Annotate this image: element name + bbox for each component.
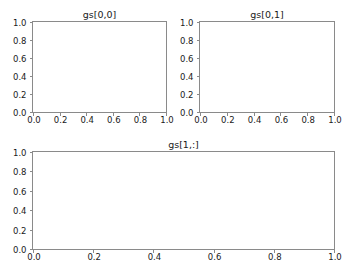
x-axis-tick-label: 0.6	[275, 116, 289, 125]
axes-gs-0-1: gs[0,1] 0.00.20.40.60.81.00.00.20.40.60.…	[199, 21, 335, 113]
x-axis-tick: 0.0	[33, 112, 34, 116]
y-axis-tick-label: 0.8	[13, 168, 27, 177]
y-axis-tick-label: 0.4	[180, 73, 194, 82]
x-axis-tick-label: 0.2	[221, 116, 235, 125]
y-axis-tick: 0.6	[197, 58, 201, 59]
y-axis-tick-label: 0.6	[13, 55, 27, 64]
y-axis-tick: 0.8	[30, 40, 34, 41]
y-axis-tick-label: 1.0	[13, 149, 27, 158]
x-axis-tick-label: 0.8	[301, 116, 315, 125]
y-axis-tick-label: 0.8	[180, 37, 194, 46]
x-axis-tick: 0.4	[86, 112, 87, 116]
x-axis-tick: 0.6	[214, 249, 215, 253]
x-axis-tick-label: 0.4	[80, 116, 94, 125]
y-axis-tick-label: 0.0	[13, 246, 27, 255]
y-axis-tick: 0.4	[30, 76, 34, 77]
y-axis-tick-label: 0.8	[13, 37, 27, 46]
y-axis-tick-label: 0.6	[13, 188, 27, 197]
axes-gs-0-0: gs[0,0] 0.00.20.40.60.81.00.00.20.40.60.…	[32, 21, 167, 113]
x-axis-tick-label: 0.4	[248, 116, 262, 125]
y-axis-tick-label: 1.0	[180, 19, 194, 28]
y-axis-tick: 0.2	[197, 94, 201, 95]
x-axis-tick-label: 0.6	[208, 253, 222, 262]
x-axis-tick: 1.0	[334, 112, 335, 116]
y-axis-tick: 0.8	[197, 40, 201, 41]
axes-title: gs[0,1]	[200, 10, 334, 20]
y-axis-tick: 0.2	[30, 94, 34, 95]
x-axis-tick: 0.8	[274, 249, 275, 253]
y-axis-tick-label: 0.0	[180, 109, 194, 118]
x-axis-tick: 0.2	[60, 112, 61, 116]
x-axis-tick-label: 0.2	[87, 253, 101, 262]
x-axis-tick: 0.6	[113, 112, 114, 116]
x-axis-tick: 0.2	[93, 249, 94, 253]
y-axis-tick-label: 0.4	[13, 207, 27, 216]
x-axis-tick-label: 0.8	[134, 116, 148, 125]
x-axis-tick: 0.8	[307, 112, 308, 116]
x-axis-tick-label: 0.8	[268, 253, 282, 262]
y-axis-tick-label: 1.0	[13, 19, 27, 28]
axes-title: gs[0,0]	[33, 10, 166, 20]
y-axis-tick-label: 0.0	[13, 109, 27, 118]
x-axis-tick: 0.8	[139, 112, 140, 116]
x-axis-tick-label: 1.0	[328, 253, 342, 262]
y-axis-tick: 1.0	[30, 152, 34, 153]
y-axis-tick: 1.0	[30, 22, 34, 23]
x-axis-tick-label: 0.0	[194, 116, 208, 125]
y-axis-tick-label: 0.6	[180, 55, 194, 64]
x-axis-tick: 1.0	[334, 249, 335, 253]
x-axis-tick: 0.6	[280, 112, 281, 116]
x-axis-tick: 0.4	[153, 249, 154, 253]
y-axis-tick: 0.4	[197, 76, 201, 77]
y-axis-tick-label: 0.2	[13, 226, 27, 235]
x-axis-tick: 0.2	[227, 112, 228, 116]
y-axis-tick: 0.4	[30, 210, 34, 211]
y-axis-tick: 0.6	[30, 191, 34, 192]
x-axis-tick-label: 1.0	[160, 116, 174, 125]
x-axis-tick-label: 0.4	[148, 253, 162, 262]
axes-title: gs[1,:]	[33, 140, 334, 150]
axes-gs-1-all: gs[1,:] 0.00.20.40.60.81.00.00.20.40.60.…	[32, 151, 335, 250]
x-axis-tick: 0.0	[200, 112, 201, 116]
x-axis-tick: 0.0	[33, 249, 34, 253]
y-axis-tick: 0.8	[30, 171, 34, 172]
y-axis-tick-label: 0.2	[13, 91, 27, 100]
x-axis-tick-label: 0.0	[27, 116, 41, 125]
x-axis-tick: 1.0	[166, 112, 167, 116]
matplotlib-figure: gs[0,0] 0.00.20.40.60.81.00.00.20.40.60.…	[0, 0, 351, 271]
y-axis-tick-label: 0.2	[180, 91, 194, 100]
x-axis-tick-label: 1.0	[328, 116, 342, 125]
x-axis-tick-label: 0.0	[27, 253, 41, 262]
x-axis-tick: 0.4	[254, 112, 255, 116]
x-axis-tick-label: 0.6	[107, 116, 121, 125]
x-axis-tick-label: 0.2	[54, 116, 68, 125]
y-axis-tick-label: 0.4	[13, 73, 27, 82]
y-axis-tick: 0.6	[30, 58, 34, 59]
y-axis-tick: 1.0	[197, 22, 201, 23]
y-axis-tick: 0.2	[30, 230, 34, 231]
